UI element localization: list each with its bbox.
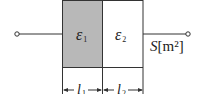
- right-terminal: [186, 32, 190, 36]
- arrowhead-icon: [138, 88, 143, 92]
- length-2-label: l2: [117, 83, 126, 94]
- area-label: S[m²]: [150, 39, 184, 54]
- area-unit: [m²]: [158, 38, 184, 54]
- area-symbol: S: [150, 38, 158, 54]
- epsilon-symbol: ε: [115, 26, 121, 43]
- epsilon-1-label: ε1: [76, 27, 87, 44]
- arrowhead-icon: [97, 88, 102, 92]
- epsilon-symbol: ε: [76, 26, 82, 43]
- epsilon-2-label: ε2: [115, 27, 126, 44]
- arrowhead-icon: [103, 88, 108, 92]
- arrowhead-icon: [63, 88, 68, 92]
- subscript: 2: [122, 35, 126, 44]
- subscript: 1: [83, 35, 87, 44]
- subscript: 2: [122, 89, 126, 94]
- left-terminal: [15, 32, 19, 36]
- subscript: 1: [82, 89, 86, 94]
- length-symbol: l: [77, 82, 81, 94]
- length-1-label: l1: [77, 83, 86, 94]
- length-symbol: l: [117, 82, 121, 94]
